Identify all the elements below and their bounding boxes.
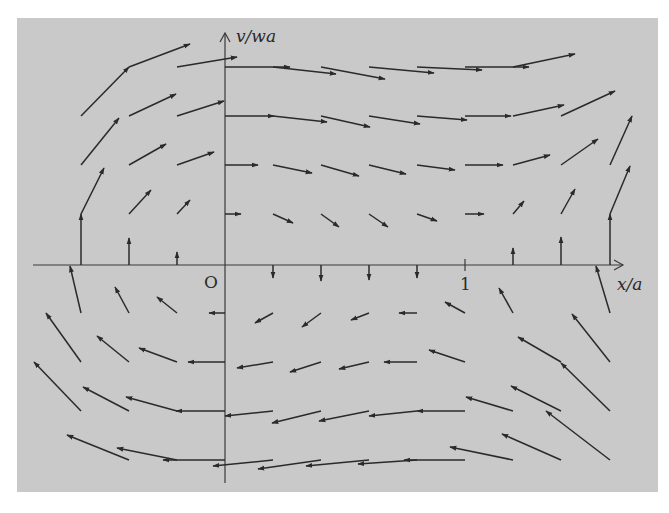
velocity-arrow-icon (129, 190, 151, 214)
velocity-arrow-icon (177, 200, 190, 214)
velocity-arrow-icon (572, 314, 610, 362)
velocity-arrow-icon (115, 287, 129, 313)
velocity-arrow-icon (513, 155, 550, 165)
velocity-arrow-icon (157, 297, 177, 313)
velocity-arrow-icon (321, 116, 370, 127)
velocity-arrow-icon (561, 363, 610, 411)
velocity-arrow-icon (417, 214, 437, 221)
velocity-arrow-icon (81, 118, 119, 165)
velocity-arrow-icon (129, 94, 176, 116)
velocity-arrow-icon (445, 302, 465, 313)
velocity-arrow-icon (502, 434, 561, 460)
velocity-arrow-icon (177, 152, 214, 165)
velocity-arrow-icon (321, 165, 359, 176)
velocity-arrow-icon (258, 460, 321, 469)
x-tick-label-1: 1 (460, 274, 471, 294)
velocity-arrow-icon (129, 144, 166, 165)
velocity-arrow-icon (46, 313, 81, 362)
velocity-arrow-icon (67, 435, 129, 460)
velocity-arrow-icon (417, 116, 467, 120)
velocity-arrow-icon (610, 166, 630, 214)
velocity-arrow-icon (561, 139, 598, 165)
velocity-arrow-icon (237, 362, 273, 368)
velocity-arrow-icon (513, 105, 564, 116)
velocity-arrow-icon (302, 313, 321, 327)
velocity-arrow-icon (129, 44, 190, 67)
vector-field-plot: v/wa x/a O 1 (0, 0, 669, 513)
velocity-arrow-icon (81, 168, 104, 214)
velocity-arrow-icon (255, 313, 273, 323)
velocity-arrow-icon (351, 313, 369, 320)
velocity-arrow-icon (596, 266, 610, 313)
velocity-arrow-icon (369, 116, 420, 124)
velocity-arrow-icon (339, 362, 369, 369)
velocity-arrow-icon (272, 411, 321, 423)
velocity-arrow-icon (518, 337, 561, 362)
velocity-arrow-icon (546, 411, 610, 460)
velocity-arrow-icon (34, 362, 81, 411)
velocity-arrow-icon (319, 411, 369, 421)
velocity-arrow-icon (290, 362, 321, 372)
velocity-arrow-icon (450, 447, 513, 460)
axes (33, 33, 623, 483)
velocity-arrow-icon (466, 397, 513, 411)
velocity-arrow-icon (499, 288, 513, 313)
velocity-arrow-icon (273, 165, 312, 173)
velocity-arrow-icon (429, 350, 465, 362)
velocity-arrow-icon (273, 116, 327, 122)
velocity-arrow-icon (610, 116, 632, 165)
velocity-arrow-icon (139, 348, 177, 362)
velocity-arrow-icon (561, 91, 615, 116)
velocity-arrow-icon (273, 214, 293, 223)
velocity-arrow-icon (511, 386, 561, 411)
velocity-arrow-icon (177, 101, 224, 116)
velocity-arrow-icon (417, 165, 455, 170)
velocity-arrow-icon (369, 411, 417, 416)
velocity-arrow-icon (225, 411, 273, 416)
velocity-arrow-icon (70, 266, 81, 313)
velocity-arrows (34, 44, 632, 469)
x-axis-label: x/a (617, 274, 642, 294)
velocity-arrow-icon (561, 189, 575, 214)
velocity-arrow-icon (213, 460, 273, 466)
velocity-arrow-icon (126, 397, 177, 411)
velocity-arrow-icon (97, 336, 129, 362)
origin-label: O (204, 272, 218, 292)
y-axis-label: v/wa (236, 26, 276, 46)
velocity-arrow-icon (177, 57, 237, 67)
velocity-arrow-icon (83, 387, 129, 411)
velocity-arrow-icon (369, 165, 406, 174)
velocity-arrow-icon (81, 67, 129, 116)
velocity-arrow-icon (513, 201, 524, 214)
velocity-arrow-icon (513, 54, 575, 67)
velocity-arrow-icon (369, 214, 388, 227)
velocity-arrow-icon (321, 214, 339, 227)
